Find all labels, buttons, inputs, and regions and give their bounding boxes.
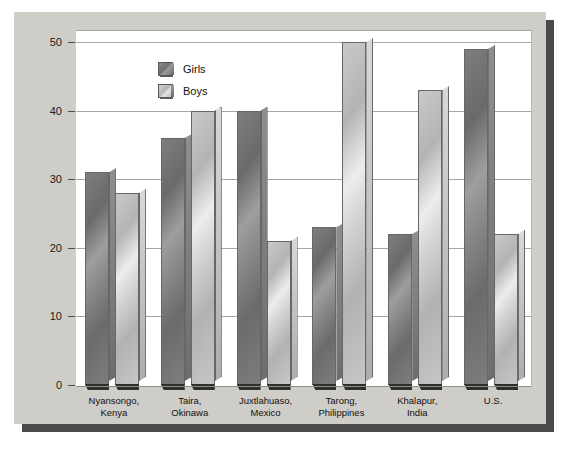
legend-label-boys: Boys <box>183 84 207 98</box>
x-tick-label-line: U.S. <box>446 395 540 407</box>
legend-swatch-girls-icon <box>158 62 173 76</box>
x-tick-label-5: U.S. <box>446 395 540 407</box>
legend-label-girls: Girls <box>183 62 206 76</box>
y-tick-10 <box>68 316 75 317</box>
bar-boys-3 <box>342 42 366 385</box>
chart-panel: Percentage of Time Spent Playing with Pe… <box>14 12 546 424</box>
bar-girls-1 <box>161 138 185 385</box>
y-tick-50 <box>68 42 75 43</box>
bar-girls-3 <box>312 227 336 385</box>
bar-boys-0 <box>115 193 139 385</box>
y-tick-label-20: 20 <box>32 243 62 254</box>
bar-boys-2 <box>267 241 291 385</box>
plot-area: Girls Boys <box>76 30 532 387</box>
y-tick-label-30: 30 <box>32 174 62 185</box>
legend-swatch-boys-icon <box>158 84 173 98</box>
y-tick-40 <box>68 111 75 112</box>
y-tick-label-50: 50 <box>32 37 62 48</box>
y-tick-20 <box>68 248 75 249</box>
bar-boys-1 <box>191 111 215 385</box>
bar-girls-5 <box>464 49 488 385</box>
plot-top-border <box>76 30 531 31</box>
x-tick-label-line: India <box>370 407 464 419</box>
bar-girls-2 <box>237 111 261 385</box>
y-tick-label-40: 40 <box>32 106 62 117</box>
chart-figure: Percentage of Time Spent Playing with Pe… <box>0 0 576 460</box>
bar-boys-5 <box>494 234 518 385</box>
y-tick-0 <box>68 385 75 386</box>
y-tick-label-0: 0 <box>32 380 62 391</box>
gridline-40 <box>76 111 531 112</box>
gridline-50 <box>76 42 531 43</box>
y-tick-30 <box>68 179 75 180</box>
axis-baseline <box>76 386 531 387</box>
bar-girls-4 <box>388 234 412 385</box>
gridline-30 <box>76 179 531 180</box>
bar-boys-4 <box>418 90 442 385</box>
y-tick-label-10: 10 <box>32 311 62 322</box>
bar-girls-0 <box>85 172 109 385</box>
